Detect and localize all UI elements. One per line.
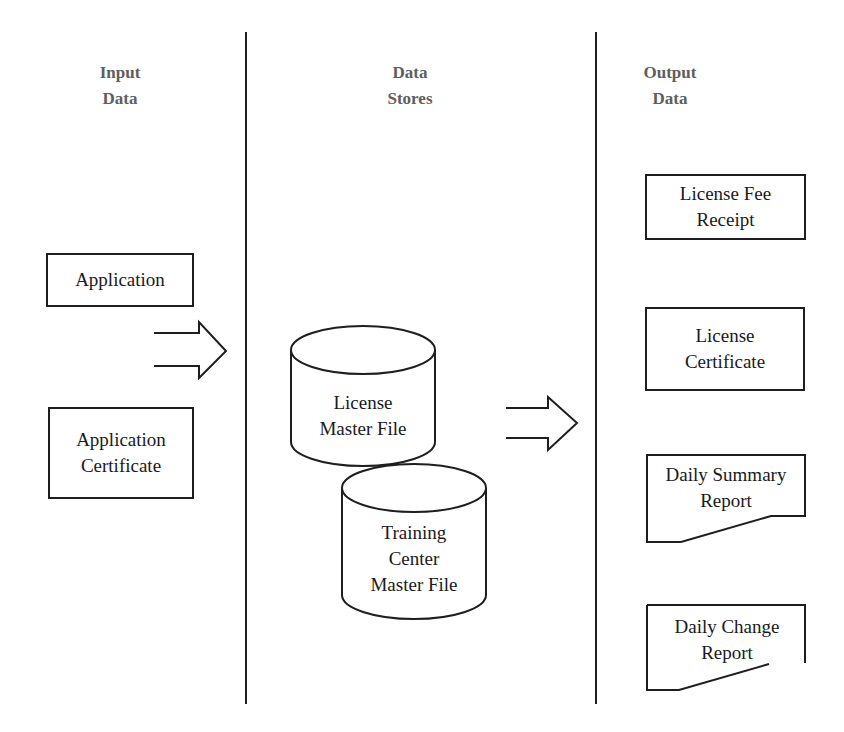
divider-stores-output <box>595 32 597 704</box>
store-training-line3: Master File <box>342 572 486 598</box>
store-license-line2: Master File <box>291 416 435 442</box>
input-data-header: Input Data <box>70 60 170 112</box>
store-license-master-file-label: License Master File <box>291 390 435 442</box>
output-daily-change-report-label: Daily Change Report <box>647 614 807 666</box>
output-summary-line1: Daily Summary <box>645 462 807 488</box>
arrow-stores-to-outputs-icon <box>502 394 582 454</box>
output-certificate-line2: Certificate <box>685 349 765 375</box>
output-daily-summary-report-label: Daily Summary Report <box>645 462 807 514</box>
output-license-fee-receipt-box: License Fee Receipt <box>645 174 806 240</box>
output-change-line2: Report <box>647 640 807 666</box>
input-training-certificate-box: Application Certificate <box>48 407 194 499</box>
output-certificate-line1: License <box>685 323 765 349</box>
input-training-certificate-line1: Application <box>76 427 166 453</box>
store-training-line1: Training <box>342 520 486 546</box>
output-summary-line2: Report <box>645 488 807 514</box>
stores-header-line1: Data <box>360 60 460 86</box>
store-training-line2: Center <box>342 546 486 572</box>
stores-header-line2: Stores <box>360 86 460 112</box>
input-application-label: Application <box>75 267 165 293</box>
output-license-certificate-box: License Certificate <box>645 307 805 391</box>
output-data-header: Output Data <box>620 60 720 112</box>
input-header-line2: Data <box>70 86 170 112</box>
output-header-line2: Data <box>620 86 720 112</box>
input-training-certificate-line2: Certificate <box>76 453 166 479</box>
output-receipt-line1: License Fee <box>680 181 771 207</box>
input-application-box: Application <box>46 253 194 307</box>
divider-input-stores <box>245 32 247 704</box>
data-stores-header: Data Stores <box>360 60 460 112</box>
output-header-line1: Output <box>620 60 720 86</box>
arrow-inputs-to-stores-icon <box>150 320 230 380</box>
store-training-center-master-file-label: Training Center Master File <box>342 520 486 598</box>
store-license-line1: License <box>291 390 435 416</box>
input-header-line1: Input <box>70 60 170 86</box>
output-receipt-line2: Receipt <box>680 207 771 233</box>
output-change-line1: Daily Change <box>647 614 807 640</box>
